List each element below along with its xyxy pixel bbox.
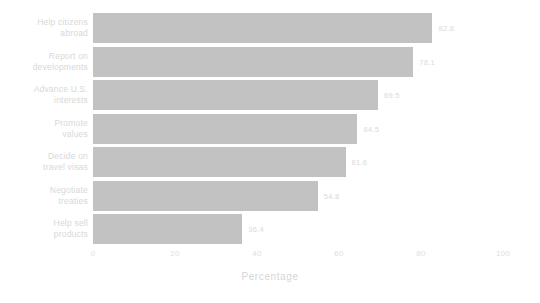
bar-value-label: 64.5 bbox=[357, 124, 379, 133]
bar bbox=[93, 181, 318, 211]
x-tick-label: 60 bbox=[334, 248, 344, 260]
bar-track: 64.5 bbox=[93, 114, 540, 144]
bar bbox=[93, 80, 378, 110]
category-label: Report ondevelopments bbox=[10, 47, 88, 77]
bar-row: Decide ontravel visas61.6 bbox=[0, 147, 540, 177]
x-tick-label: 0 bbox=[91, 248, 96, 260]
bar bbox=[93, 47, 413, 77]
bar-chart: Help citizensabroad82.8Report ondevelopm… bbox=[0, 0, 540, 303]
bar-track: 61.6 bbox=[93, 147, 540, 177]
bar-value-label: 36.4 bbox=[242, 225, 264, 234]
category-label-line1: Promote bbox=[54, 118, 88, 129]
category-label: Decide ontravel visas bbox=[10, 147, 88, 177]
category-label-line1: Help citizens bbox=[37, 17, 88, 28]
category-label: Advance U.S.interests bbox=[10, 80, 88, 110]
category-label-line1: Help sell bbox=[54, 218, 88, 229]
x-axis-title: Percentage bbox=[0, 270, 540, 284]
category-label-line2: treaties bbox=[59, 196, 88, 207]
x-tick-label: 20 bbox=[170, 248, 180, 260]
bar-row: Help sellproducts36.4 bbox=[0, 214, 540, 244]
bar-row: Promotevalues64.5 bbox=[0, 114, 540, 144]
category-label-line1: Decide on bbox=[48, 151, 88, 162]
bar-track: 78.1 bbox=[93, 47, 540, 77]
bar-row: Help citizensabroad82.8 bbox=[0, 13, 540, 43]
category-label-line2: developments bbox=[33, 62, 88, 73]
category-label-line2: abroad bbox=[60, 28, 88, 39]
bar-track: 82.8 bbox=[93, 13, 540, 43]
bar-value-label: 78.1 bbox=[413, 57, 435, 66]
bar-track: 54.8 bbox=[93, 181, 540, 211]
category-label: Help sellproducts bbox=[10, 214, 88, 244]
category-label: Promotevalues bbox=[10, 114, 88, 144]
x-tick-label: 40 bbox=[252, 248, 262, 260]
category-label: Negotiatetreaties bbox=[10, 181, 88, 211]
bar-row: Advance U.S.interests69.5 bbox=[0, 80, 540, 110]
category-label-line1: Advance U.S. bbox=[34, 84, 88, 95]
category-label-line1: Report on bbox=[49, 51, 88, 62]
bar-row: Report ondevelopments78.1 bbox=[0, 47, 540, 77]
x-tick-label: 80 bbox=[416, 248, 426, 260]
category-label-line1: Negotiate bbox=[50, 185, 88, 196]
bar-value-label: 54.8 bbox=[318, 191, 340, 200]
bar-track: 69.5 bbox=[93, 80, 540, 110]
bar-value-label: 61.6 bbox=[346, 158, 368, 167]
bar bbox=[93, 147, 346, 177]
bar bbox=[93, 114, 357, 144]
bar-value-label: 82.8 bbox=[432, 24, 454, 33]
bar-row: Negotiatetreaties54.8 bbox=[0, 181, 540, 211]
category-label: Help citizensabroad bbox=[10, 13, 88, 43]
category-label-line2: travel visas bbox=[43, 162, 88, 173]
x-axis: 020406080100 bbox=[93, 248, 503, 264]
category-label-line2: interests bbox=[54, 95, 88, 106]
bar bbox=[93, 214, 242, 244]
category-label-line2: values bbox=[62, 129, 88, 140]
category-label-line2: products bbox=[54, 229, 88, 240]
bar bbox=[93, 13, 432, 43]
bar-track: 36.4 bbox=[93, 214, 540, 244]
bar-value-label: 69.5 bbox=[378, 91, 400, 100]
x-tick-label: 100 bbox=[496, 248, 510, 260]
